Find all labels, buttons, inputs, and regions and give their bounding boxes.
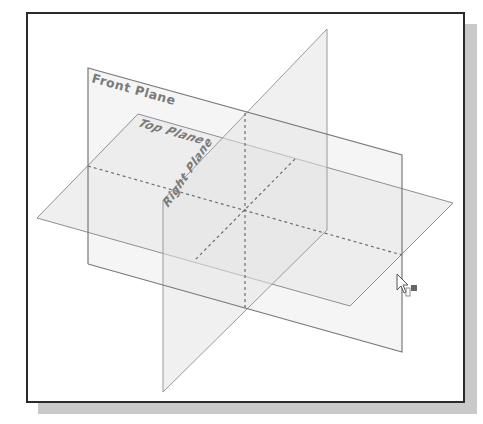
reference-planes-scene[interactable]: Front Plane Top Plane Right Plane xyxy=(0,0,483,424)
plane-select-icon xyxy=(406,285,417,296)
